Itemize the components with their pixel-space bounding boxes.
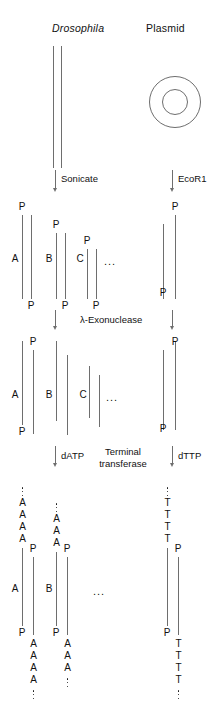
plasmid-tail-top-thymine-1: T	[163, 498, 172, 508]
step-label-terminal-line1: Terminal	[92, 446, 154, 457]
fragment-b-tail-top-ellipsis	[55, 503, 58, 512]
fragment-b-strand-left-stage4	[56, 552, 57, 626]
plasmid-strand-left-stage3	[163, 350, 164, 430]
fragment-a-strand-left	[22, 215, 23, 299]
step-label-terminal-line2: transferase	[92, 458, 154, 469]
fragment-a-tail-bottom-adenine-2: A	[29, 651, 38, 661]
step-label-dttp: dTTP	[178, 450, 201, 461]
fragment-b-label: B	[45, 254, 53, 264]
exonuclease-arrow-line-left	[55, 310, 56, 326]
exonuclease-arrow-head-left	[53, 326, 57, 330]
fragment-c-strand-left-stage3	[89, 366, 90, 418]
sonicate-arrow-line	[55, 170, 56, 188]
fragment-a-tail-top-adenine-2: A	[18, 510, 27, 520]
sonicate-arrow-head	[53, 188, 57, 192]
fragment-a-strand-right-stage3	[33, 350, 34, 434]
fragment-b-phosphate-top: P	[52, 220, 60, 230]
plasmid-tail-top-ellipsis	[166, 487, 169, 496]
figure-canvas: Drosophila Plasmid Sonicate EcoR1 P P A …	[0, 0, 216, 714]
datp-arrow-head	[53, 463, 57, 467]
plasmid-phosphate-top-stage2: P	[171, 202, 179, 212]
fragment-b-strand-left	[56, 233, 57, 299]
fragment-a-tail-bottom-adenine-3: A	[29, 663, 38, 673]
fragment-c-label: C	[76, 254, 84, 264]
fragments-ellipsis-stage3: ...	[106, 392, 118, 402]
step-label-ecor1: EcoR1	[178, 173, 207, 184]
fragment-b-phosphate-bottom: P	[61, 301, 69, 311]
fragment-c-strand-left	[87, 249, 88, 299]
fragment-a-label-stage4: A	[11, 584, 19, 594]
dttp-arrow-head	[170, 463, 174, 467]
step-label-datp: dATP	[61, 450, 84, 461]
plasmid-strand-right-stage4	[178, 557, 179, 635]
fragment-a-strand-left-stage3	[22, 341, 23, 425]
fragment-a-phosphate-bottom-stage3: P	[18, 427, 26, 437]
fragment-b-tail-bottom-adenine-1: A	[63, 639, 72, 649]
fragment-a-strand-left-stage4	[22, 548, 23, 626]
fragment-c-label-stage3: C	[79, 390, 87, 400]
fragment-b-tail-top-adenine-2: A	[52, 526, 61, 536]
fragment-a-tail-bottom-ellipsis	[32, 690, 35, 699]
dttp-arrow-line	[172, 446, 173, 463]
drosophila-strand-right	[61, 46, 62, 168]
fragment-b-tail-bottom-ellipsis	[66, 678, 69, 687]
fragment-b-label-stage4: B	[45, 584, 53, 594]
fragment-b-strand-right-stage4	[67, 557, 68, 635]
fragment-b-strand-right	[65, 233, 66, 299]
fragment-a-tail-bottom-adenine-4: A	[29, 675, 38, 685]
fragment-a-tail-top-adenine-3: A	[18, 522, 27, 532]
plasmid-strand-left-stage4	[167, 548, 168, 626]
plasmid-inner-circle	[162, 89, 188, 115]
drosophila-strand-left	[53, 46, 54, 168]
ecor1-arrow-head	[170, 188, 174, 192]
fragment-b-tail-bottom-adenine-3: A	[63, 663, 72, 673]
fragment-b-tail-top-adenine-3: A	[52, 538, 61, 548]
exonuclease-arrow-line-right	[172, 310, 173, 326]
plasmid-phosphate-bottom-stage2: P	[159, 288, 167, 298]
fragment-b-strand-right-stage3	[67, 355, 68, 435]
fragment-b-phosphate-top-stage4: P	[63, 544, 71, 554]
plasmid-phosphate-top-stage4: P	[174, 544, 182, 554]
fragment-a-phosphate-top: P	[18, 202, 26, 212]
datp-arrow-line	[55, 446, 56, 463]
fragment-a-strand-right	[31, 215, 32, 299]
fragment-a-phosphate-top-stage3: P	[29, 337, 37, 347]
fragment-b-strand-left-stage3	[56, 341, 57, 421]
plasmid-tail-bottom-thymine-2: T	[174, 651, 183, 661]
fragment-c-strand-right-stage3	[99, 375, 100, 427]
plasmid-strand-right-stage2	[175, 215, 176, 299]
fragment-a-tail-bottom-adenine-1: A	[29, 639, 38, 649]
fragment-b-tail-top-adenine-1: A	[52, 514, 61, 524]
plasmid-phosphate-bottom-stage3: P	[159, 424, 167, 434]
plasmid-tail-top-thymine-4: T	[163, 534, 172, 544]
fragment-b-tail-bottom-adenine-2: A	[63, 651, 72, 661]
fragment-a-phosphate-top-stage4: P	[29, 544, 37, 554]
fragment-a-label-stage3: A	[11, 390, 19, 400]
plasmid-tail-bottom-thymine-4: T	[174, 675, 183, 685]
fragment-a-tail-top-adenine-4: A	[18, 534, 27, 544]
fragment-c-strand-right	[96, 249, 97, 299]
fragment-a-tail-top-adenine-1: A	[18, 498, 27, 508]
fragments-ellipsis-stage4: ...	[93, 586, 105, 596]
plasmid-phosphate-bottom-stage4: P	[163, 628, 171, 638]
column-heading-plasmid: Plasmid	[146, 22, 185, 34]
plasmid-strand-right-stage3	[175, 341, 176, 430]
step-label-exonuclease: λ-Exonuclease	[80, 314, 142, 325]
fragments-ellipsis: ...	[104, 256, 116, 266]
plasmid-tail-bottom-thymine-1: T	[174, 639, 183, 649]
fragment-a-strand-right-stage4	[33, 557, 34, 635]
fragment-a-phosphate-bottom-stage4: P	[18, 628, 26, 638]
step-label-sonicate: Sonicate	[61, 173, 98, 184]
fragment-b-label-stage3: B	[45, 390, 53, 400]
plasmid-tail-top-thymine-3: T	[163, 522, 172, 532]
ecor1-arrow-line	[172, 170, 173, 188]
plasmid-tail-bottom-thymine-3: T	[174, 663, 183, 673]
plasmid-phosphate-top-stage3: P	[171, 337, 179, 347]
fragment-c-phosphate-bottom: P	[92, 301, 100, 311]
exonuclease-arrow-head-right	[170, 326, 174, 330]
fragment-a-label: A	[11, 254, 19, 264]
column-heading-drosophila: Drosophila	[52, 22, 104, 34]
plasmid-tail-top-thymine-2: T	[163, 510, 172, 520]
fragment-a-tail-top-ellipsis	[21, 487, 24, 496]
plasmid-tail-bottom-ellipsis	[177, 690, 180, 699]
